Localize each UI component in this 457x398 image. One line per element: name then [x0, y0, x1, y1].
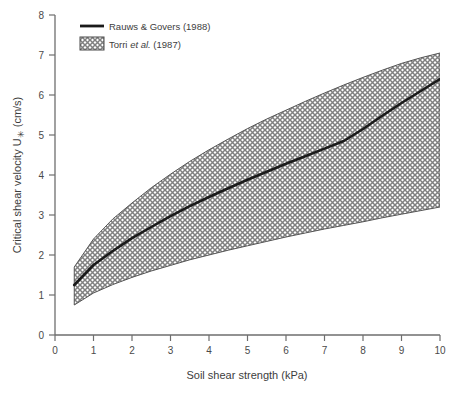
y-tick-labels: 012345678: [38, 10, 44, 341]
x-tick-label: 0: [52, 345, 58, 356]
chart-figure: 012345678910 012345678 Soil shear streng…: [0, 0, 457, 398]
legend-label-rauws-govers: Rauws & Govers (1988): [109, 21, 210, 32]
y-tick-label: 5: [38, 130, 44, 141]
x-tick-label: 7: [322, 345, 328, 356]
x-tick-label: 9: [399, 345, 405, 356]
y-tick-label: 0: [38, 330, 44, 341]
x-tick-label: 10: [434, 345, 446, 356]
x-tick-label: 2: [129, 345, 135, 356]
y-tick-label: 4: [38, 170, 44, 181]
x-tick-label: 5: [245, 345, 251, 356]
critical-shear-velocity-chart: 012345678910 012345678 Soil shear streng…: [0, 0, 457, 398]
x-tick-label: 8: [360, 345, 366, 356]
x-tick-label: 1: [91, 345, 97, 356]
x-tick-label: 6: [283, 345, 289, 356]
x-tick-label: 4: [206, 345, 212, 356]
legend-hatch-swatch: [80, 37, 104, 50]
y-tick-label: 1: [38, 290, 44, 301]
y-tick-label: 6: [38, 90, 44, 101]
legend-label-torri: Torri et al. (1987): [109, 39, 181, 50]
x-tick-label: 3: [168, 345, 174, 356]
y-tick-label: 8: [38, 10, 44, 21]
y-tick-label: 3: [38, 210, 44, 221]
y-tick-label: 7: [38, 50, 44, 61]
y-tick-label: 2: [38, 250, 44, 261]
x-axis-title: Soil shear strength (kPa): [186, 369, 307, 381]
